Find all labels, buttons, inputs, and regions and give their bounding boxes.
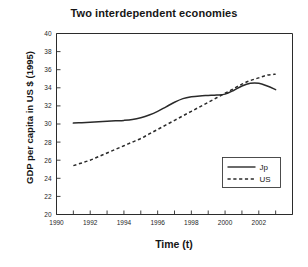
y-tick-label: 40	[44, 30, 52, 37]
y-tick-label: 22	[44, 193, 52, 200]
x-axis-ticks: 1990199219941996199820002002	[49, 211, 292, 226]
legend-label-jp: Jp	[260, 163, 269, 172]
y-tick-label: 34	[44, 84, 52, 91]
y-tick-label: 38	[44, 48, 52, 55]
x-tick-label: 1994	[117, 219, 132, 226]
x-tick-label: 1998	[184, 219, 199, 226]
y-tick-label: 36	[44, 66, 52, 73]
x-tick-label: 1990	[49, 219, 64, 226]
chart-figure: Two interdependent economies GDP per cap…	[0, 0, 308, 267]
series-line-us	[73, 74, 275, 165]
y-tick-label: 30	[44, 120, 52, 127]
y-axis-ticks: 2022242628303234363840	[44, 30, 60, 218]
legend-box	[223, 158, 281, 188]
legend-label-us: US	[260, 175, 271, 184]
series-line-jp	[73, 83, 275, 123]
y-tick-label: 32	[44, 102, 52, 109]
y-tick-label: 20	[44, 211, 52, 218]
x-tick-label: 2002	[252, 219, 267, 226]
x-tick-label: 1996	[150, 219, 165, 226]
y-tick-label: 26	[44, 157, 52, 164]
data-series-group	[73, 74, 275, 165]
x-tick-label: 2000	[218, 219, 233, 226]
x-tick-label: 1992	[83, 219, 98, 226]
chart-legend: JpUS	[223, 158, 281, 188]
plot-area: 2022242628303234363840 19901992199419961…	[0, 0, 308, 267]
y-tick-label: 24	[44, 175, 52, 182]
y-tick-label: 28	[44, 139, 52, 146]
